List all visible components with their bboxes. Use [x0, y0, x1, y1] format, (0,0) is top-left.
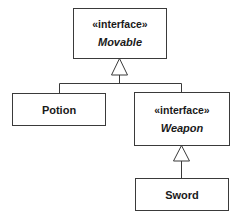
interface-weapon[interactable]: «interface» Weapon [134, 92, 230, 146]
class-sword[interactable]: Sword [135, 178, 229, 211]
stereotype-label: «interface» [154, 103, 209, 117]
inheritance-arrow-weapon [174, 146, 190, 162]
interface-name: Weapon [161, 120, 204, 136]
class-name: Potion [42, 104, 76, 116]
interface-name: Movable [98, 34, 142, 50]
interface-movable[interactable]: «interface» Movable [73, 8, 167, 59]
inheritance-arrow-movable [112, 59, 128, 76]
class-name: Sword [165, 189, 199, 201]
class-potion[interactable]: Potion [12, 93, 106, 126]
stereotype-label: «interface» [92, 17, 147, 31]
